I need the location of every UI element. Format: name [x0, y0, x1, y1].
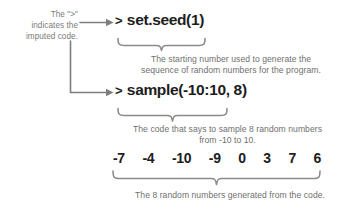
output-number: 0	[238, 150, 246, 166]
caption-set-seed-line-2: sequence of random numbers for the progr…	[106, 65, 356, 76]
annotated-code-diagram: The ">" indicates the imputed code. > se…	[0, 0, 361, 212]
curly-brace-icon-output	[113, 171, 320, 185]
caption-output-line-1: The 8 random numbers generated from the …	[104, 190, 356, 201]
caption-output-numbers: The 8 random numbers generated from the …	[104, 190, 356, 201]
output-number: -7	[113, 150, 125, 166]
code-text-set-seed: set.seed(1)	[127, 11, 204, 28]
output-number: 3	[263, 150, 271, 166]
output-number: 6	[313, 150, 321, 166]
code-prompt-symbol: >	[115, 83, 122, 98]
caption-sample: The code that says to sample 8 random nu…	[100, 124, 355, 147]
caption-sample-line-2: from -10 to 10.	[100, 135, 355, 146]
code-line-set-seed: > set.seed(1)	[115, 11, 204, 29]
output-numbers-row: -7 -4 -10 -9 0 3 7 6	[113, 150, 321, 166]
arrow-right-icon-to-set-seed	[80, 19, 114, 26]
left-note-line-3: imputed code.	[4, 31, 78, 42]
code-text-sample: sample(-10:10, 8)	[127, 81, 247, 98]
left-note-line-2: indicates the	[4, 20, 78, 31]
output-number: 7	[288, 150, 296, 166]
output-number: -10	[172, 150, 191, 166]
caption-set-seed-line-1: The starting number used to generate the	[106, 54, 356, 65]
caption-sample-line-1: The code that says to sample 8 random nu…	[100, 124, 355, 135]
caption-set-seed: The starting number used to generate the…	[106, 54, 356, 77]
left-note-line-1: The ">"	[4, 9, 78, 20]
curly-brace-icon-set-seed	[118, 39, 205, 51]
output-number: -4	[142, 150, 154, 166]
curly-brace-icon-sample	[118, 109, 227, 122]
code-line-sample: > sample(-10:10, 8)	[115, 81, 247, 99]
output-number: -9	[209, 150, 221, 166]
left-annotation-note: The ">" indicates the imputed code.	[4, 9, 78, 43]
code-prompt-symbol: >	[115, 13, 122, 28]
